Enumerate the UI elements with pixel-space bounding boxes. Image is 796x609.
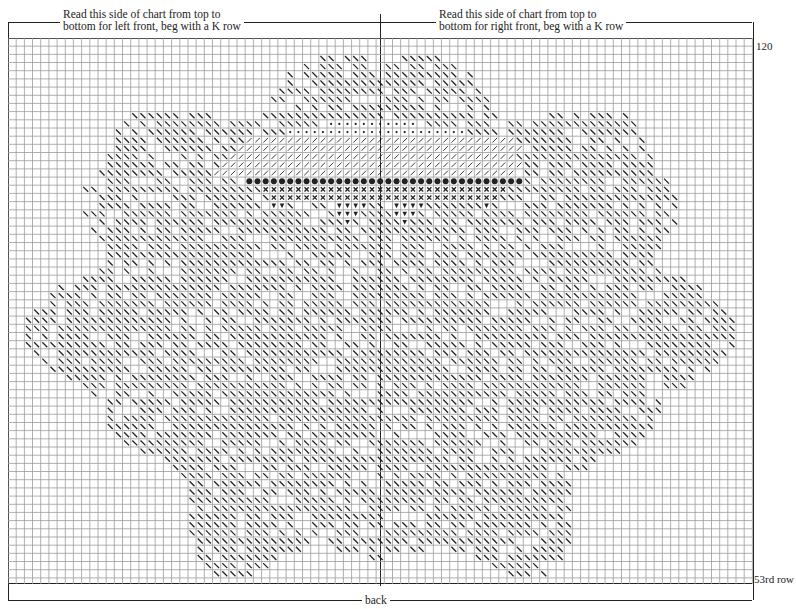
row-53-label: 53rd row <box>754 573 794 585</box>
right-front-note: Read this side of chart from top to bott… <box>436 8 626 32</box>
left-note-line2: bottom for left front, beg with a K row <box>63 20 241 32</box>
left-front-note: Read this side of chart from top to bott… <box>60 8 244 32</box>
knitting-chart-grid <box>8 38 753 584</box>
left-note-line1: Read this side of chart from top to <box>63 8 241 20</box>
row-120-label: 120 <box>756 40 773 52</box>
back-label: back <box>362 594 390 606</box>
right-note-line2: bottom for right front, beg with a K row <box>439 20 623 32</box>
right-note-line1: Read this side of chart from top to <box>439 8 623 20</box>
